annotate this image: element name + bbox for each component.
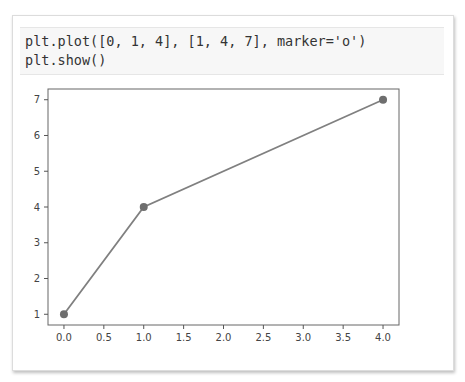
data-point-marker — [379, 96, 387, 104]
data-point-marker — [140, 203, 148, 211]
y-tick-label: 1 — [34, 309, 40, 320]
x-tick-label: 2.5 — [255, 332, 271, 343]
x-tick-label: 1.0 — [136, 332, 152, 343]
y-tick-label: 4 — [34, 202, 40, 213]
x-tick-label: 4.0 — [375, 332, 391, 343]
plot-frame — [48, 89, 399, 325]
y-tick-label: 6 — [34, 130, 40, 141]
x-tick-label: 0.0 — [56, 332, 72, 343]
data-point-marker — [60, 310, 68, 318]
y-tick-label: 7 — [34, 94, 40, 105]
x-tick-label: 3.5 — [335, 332, 351, 343]
y-tick-label: 2 — [34, 273, 40, 284]
y-tick-label: 5 — [34, 166, 40, 177]
line-chart: 0.00.51.01.52.02.53.03.54.01234567 — [0, 0, 465, 382]
x-tick-label: 1.5 — [176, 332, 192, 343]
x-tick-label: 3.0 — [295, 332, 311, 343]
x-tick-label: 2.0 — [216, 332, 232, 343]
y-tick-label: 3 — [34, 237, 40, 248]
x-tick-label: 0.5 — [96, 332, 112, 343]
